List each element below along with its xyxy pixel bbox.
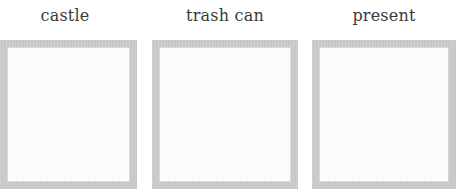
drop-box-present[interactable] — [312, 40, 456, 189]
card-label: present — [312, 6, 456, 25]
drop-box-castle[interactable] — [0, 40, 137, 189]
card-label: trash can — [152, 6, 298, 25]
drop-box-trash-can[interactable] — [152, 40, 298, 189]
card-label: castle — [0, 6, 130, 25]
